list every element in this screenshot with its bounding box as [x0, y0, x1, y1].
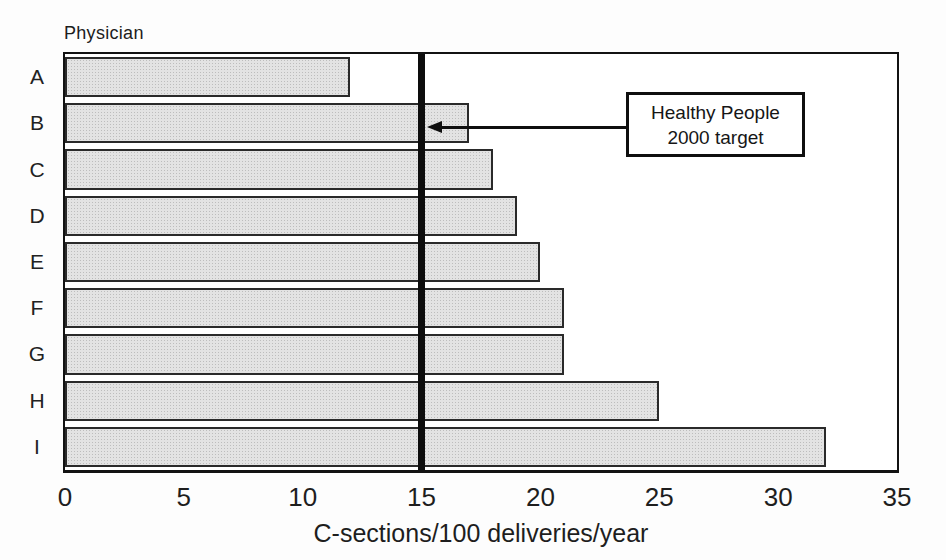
y-label-E: E: [16, 249, 58, 275]
bar-physician-A: [65, 57, 350, 97]
bar-physician-I: [65, 427, 826, 467]
target-callout-box: Healthy People 2000 target: [626, 92, 805, 157]
bar-physician-G: [65, 334, 564, 374]
bar-physician-F: [65, 288, 564, 328]
bar-physician-D: [65, 196, 517, 236]
y-label-I: I: [16, 434, 58, 460]
bar-physician-H: [65, 381, 659, 421]
y-label-C: C: [16, 157, 58, 183]
bar-physician-E: [65, 242, 540, 282]
bar-physician-B: [65, 103, 469, 143]
y-label-F: F: [16, 295, 58, 321]
plot-area: Healthy People 2000 target: [63, 52, 899, 473]
x-tick-30: 30: [748, 482, 808, 512]
x-axis-title: C-sections/100 deliveries/year: [63, 519, 899, 547]
target-reference-line: [418, 54, 425, 470]
y-label-G: G: [16, 341, 58, 367]
x-tick-35: 35: [867, 482, 927, 512]
y-label-A: A: [16, 64, 58, 90]
x-tick-0: 0: [35, 482, 95, 512]
y-axis-title: Physician: [64, 23, 144, 43]
y-label-H: H: [16, 388, 58, 414]
bar-physician-C: [65, 149, 493, 189]
annotation-arrow-line: [439, 126, 627, 129]
cesarean-rate-bar-chart: Physician Healthy People 2000 target ABC…: [0, 0, 946, 560]
x-tick-25: 25: [629, 482, 689, 512]
callout-text-line1: Healthy People: [651, 100, 780, 125]
x-tick-20: 20: [510, 482, 570, 512]
y-label-D: D: [16, 203, 58, 229]
x-tick-10: 10: [273, 482, 333, 512]
y-label-B: B: [16, 110, 58, 136]
annotation-arrow-head-icon: [427, 121, 442, 133]
x-tick-15: 15: [392, 482, 452, 512]
callout-text-line2: 2000 target: [667, 125, 763, 150]
x-tick-5: 5: [154, 482, 214, 512]
